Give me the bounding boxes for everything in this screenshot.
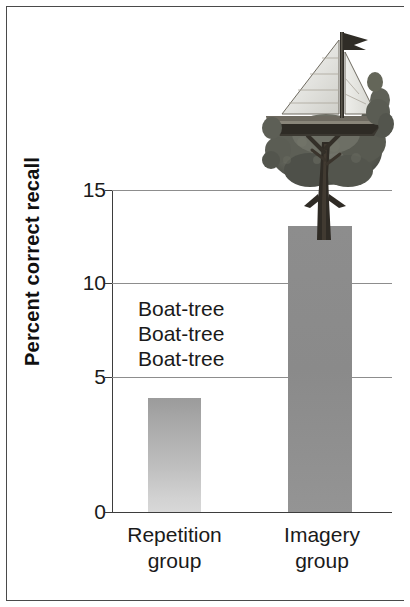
plot-area: Boat-tree Boat-tree Boat-tree — [112, 190, 392, 512]
bar-imagery-group[interactable] — [288, 226, 352, 512]
y-tick-mark-10 — [105, 283, 112, 284]
y-tick-mark-5 — [105, 377, 112, 378]
x-label-imagery-line-1: Imagery — [252, 522, 392, 548]
y-tick-mark-0 — [105, 512, 112, 513]
figure-container: 15 10 5 0 Percent correct recall Boat-tr… — [0, 0, 410, 607]
x-category-label-group: Repetition group Imagery group — [112, 522, 392, 592]
y-tick-label-15: 15 — [83, 179, 106, 200]
boat-tree-annotation: Boat-tree Boat-tree Boat-tree — [138, 296, 224, 371]
x-axis-line — [112, 512, 392, 513]
y-tick-label-10: 10 — [83, 272, 106, 293]
boat-tree-line-3: Boat-tree — [138, 346, 224, 371]
y-tick-mark-15 — [105, 190, 112, 191]
x-label-repetition-group: Repetition group — [102, 522, 247, 574]
x-label-imagery-line-2: group — [252, 548, 392, 574]
y-tick-label-group: 15 10 5 0 — [62, 0, 106, 607]
x-label-imagery-group: Imagery group — [252, 522, 392, 574]
bar-repetition-group[interactable] — [148, 398, 201, 512]
x-label-repetition-line-2: group — [102, 548, 247, 574]
boat-tree-line-2: Boat-tree — [138, 321, 224, 346]
boat-tree-line-1: Boat-tree — [138, 296, 224, 321]
y-axis-title: Percent correct recall — [21, 122, 44, 402]
gridline-15 — [112, 190, 392, 191]
x-label-repetition-line-1: Repetition — [102, 522, 247, 548]
y-axis-line — [112, 190, 113, 512]
